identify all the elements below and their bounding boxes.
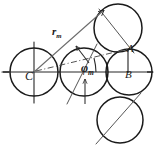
label-angle-phi: φm <box>81 62 94 77</box>
label-point-a: A <box>127 43 134 54</box>
line-through-bottom-right-circle <box>96 93 141 144</box>
circle-bottom-right <box>97 97 143 143</box>
label-point-b: B <box>125 69 132 80</box>
label-center-c: C <box>25 70 33 82</box>
angle-arc <box>94 58 96 72</box>
geometry-diagram: C A B rm φm <box>0 0 155 147</box>
label-angle-phi-base: φ <box>81 61 88 75</box>
label-angle-phi-subscript: m <box>88 68 94 77</box>
label-radius-vector: rm <box>52 26 61 40</box>
label-radius-vector-subscript: m <box>56 32 61 39</box>
